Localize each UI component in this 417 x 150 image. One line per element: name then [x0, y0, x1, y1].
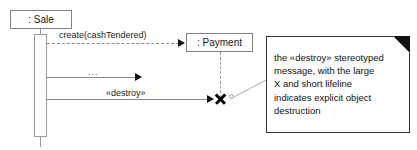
note-anchor-dot-icon	[229, 94, 234, 99]
lifeline-sale-tail	[40, 137, 41, 147]
sequence-diagram-canvas: : Sale : Payment create(cashTendered) ..…	[0, 0, 417, 150]
message-label-destroy: «destroy»	[106, 89, 146, 98]
message-line-create	[47, 43, 179, 44]
message-label-ellipsis: ...	[88, 68, 99, 77]
note-leader-line	[228, 74, 270, 102]
lifeline-label-sale: : Sale	[28, 15, 54, 25]
lifeline-head-sale[interactable]: : Sale	[10, 10, 72, 29]
lifeline-payment	[220, 52, 221, 98]
lifeline-label-payment: : Payment	[197, 38, 242, 48]
note-text: the «destroy» stereotyped message, with …	[274, 51, 404, 117]
lifeline-head-payment[interactable]: : Payment	[186, 33, 253, 52]
message-line-ellipsis	[47, 77, 136, 78]
message-label-create: create(cashTendered)	[59, 31, 147, 40]
arrowhead-create-icon	[178, 39, 185, 47]
arrowhead-ellipsis-icon	[135, 73, 142, 81]
note-box[interactable]: the «destroy» stereotyped message, with …	[266, 36, 410, 133]
arrowhead-destroy-icon	[207, 95, 214, 103]
activation-bar-sale[interactable]	[34, 34, 47, 137]
message-line-destroy	[47, 99, 208, 100]
